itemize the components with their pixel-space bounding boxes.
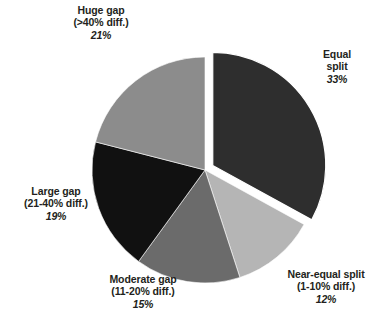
slice-label-line2: (11-20% diff.)	[83, 285, 203, 297]
slice-label-line1: Moderate gap	[83, 273, 203, 285]
slice-label-moderate-gap: Moderate gap (11-20% diff.) 15%	[83, 273, 203, 310]
slice-label-line1: Equal	[300, 48, 374, 60]
slice-label-percent: 15%	[83, 298, 203, 310]
slice-label-percent: 21%	[38, 29, 164, 41]
slice-label-line1: Huge gap	[38, 4, 164, 16]
pie-slice-group	[92, 52, 326, 283]
slice-label-line2: (>40% diff.)	[38, 16, 164, 28]
pie-chart-figure: Equal split 33% Near-equal split (1-10% …	[0, 0, 382, 328]
slice-label-equal-split: Equal split 33%	[300, 48, 374, 85]
slice-label-near-equal-split: Near-equal split (1-10% diff.) 12%	[272, 268, 380, 305]
slice-label-huge-gap: Huge gap (>40% diff.) 21%	[38, 4, 164, 41]
slice-label-line1: Near-equal split	[272, 268, 380, 280]
slice-label-percent: 33%	[300, 73, 374, 85]
slice-label-large-gap: Large gap (21-40% diff.) 19%	[2, 185, 110, 222]
slice-label-percent: 19%	[2, 210, 110, 222]
slice-label-line2: split	[300, 60, 374, 72]
slice-label-line2: (21-40% diff.)	[2, 197, 110, 209]
slice-label-percent: 12%	[272, 293, 380, 305]
slice-label-line2: (1-10% diff.)	[272, 280, 380, 292]
slice-label-line1: Large gap	[2, 185, 110, 197]
